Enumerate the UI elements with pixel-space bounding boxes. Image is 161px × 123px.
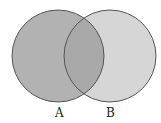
set-b-label: B bbox=[106, 106, 115, 120]
venn-diagram: A B bbox=[0, 0, 161, 123]
set-a-label: A bbox=[54, 106, 64, 120]
